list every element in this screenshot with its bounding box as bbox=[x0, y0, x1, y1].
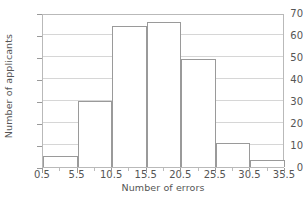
x-tick-mark bbox=[42, 168, 43, 173]
x-tick-mark bbox=[215, 168, 216, 173]
x-tick-mark bbox=[180, 168, 181, 173]
y-tick-label: 40 bbox=[269, 75, 303, 85]
x-tick-mark-minor bbox=[163, 168, 164, 171]
histogram-bar bbox=[216, 143, 251, 167]
x-tick-mark bbox=[284, 168, 285, 173]
x-tick-mark-minor bbox=[59, 168, 60, 171]
y-tick-mark bbox=[37, 102, 42, 103]
y-tick-mark bbox=[37, 146, 42, 147]
histogram-bar bbox=[78, 101, 113, 167]
y-tick-label: 30 bbox=[269, 97, 303, 107]
x-tick-mark-minor bbox=[198, 168, 199, 171]
histogram-bar bbox=[43, 156, 78, 167]
y-tick-label: 70 bbox=[269, 9, 303, 19]
y-tick-label: 60 bbox=[269, 31, 303, 41]
x-tick-mark bbox=[111, 168, 112, 173]
y-tick-mark bbox=[37, 124, 42, 125]
y-tick-mark bbox=[37, 58, 42, 59]
y-tick-mark bbox=[37, 36, 42, 37]
x-axis-title: Number of errors bbox=[42, 182, 284, 193]
x-tick-mark bbox=[77, 168, 78, 173]
x-tick-mark-minor bbox=[267, 168, 268, 171]
x-tick-mark bbox=[249, 168, 250, 173]
y-tick-label: 20 bbox=[269, 119, 303, 129]
histogram-bar bbox=[112, 26, 147, 167]
y-axis-title: Number of applicants bbox=[2, 2, 16, 170]
y-tick-mark bbox=[37, 14, 42, 15]
histogram-figure: Number of applicants 0102030405060700.55… bbox=[0, 0, 303, 206]
y-tick-label: 50 bbox=[269, 53, 303, 63]
x-tick-mark-minor bbox=[94, 168, 95, 171]
histogram-bar bbox=[181, 59, 216, 167]
x-tick-mark bbox=[146, 168, 147, 173]
y-tick-label: 10 bbox=[269, 141, 303, 151]
histogram-bar bbox=[147, 22, 182, 167]
x-tick-mark-minor bbox=[128, 168, 129, 171]
y-tick-mark bbox=[37, 80, 42, 81]
plot-area bbox=[42, 14, 284, 168]
x-tick-mark-minor bbox=[232, 168, 233, 171]
